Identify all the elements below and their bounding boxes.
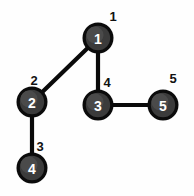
node-n5[interactable]: 5 xyxy=(148,90,179,121)
node-n4[interactable]: 4 xyxy=(17,153,48,184)
node-n4-text: 4 xyxy=(28,161,36,177)
node-n2-text: 2 xyxy=(28,95,36,111)
graph-diagram-canvas: 1 2 3 4 xyxy=(0,0,194,196)
node-label-n4: 3 xyxy=(36,139,43,154)
node-label-n3: 4 xyxy=(103,75,111,90)
node-label-n1: 1 xyxy=(109,9,116,24)
node-n5-text: 5 xyxy=(159,98,167,114)
node-n3[interactable]: 3 xyxy=(83,90,114,121)
node-n2[interactable]: 2 xyxy=(17,87,48,118)
node-label-n2: 2 xyxy=(30,73,37,88)
node-group: 1 2 3 4 xyxy=(17,23,179,184)
node-n1-text: 1 xyxy=(94,31,102,47)
node-label-n5: 5 xyxy=(169,71,176,86)
node-n3-text: 3 xyxy=(94,98,102,114)
graph-svg: 1 2 3 4 xyxy=(0,0,194,196)
node-n1[interactable]: 1 xyxy=(83,23,114,54)
